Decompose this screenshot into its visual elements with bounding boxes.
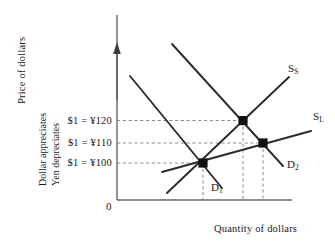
- y-tick-label-100: $1 = ¥100: [28, 157, 112, 168]
- y-tick-label-120: $1 = ¥120: [28, 115, 112, 126]
- curve-label-d2-base: D: [287, 158, 295, 170]
- equilibrium-point-short-run: [238, 116, 247, 125]
- curve-label-demand-initial: D1: [211, 181, 223, 193]
- appreciation-arrow-icon: [113, 42, 121, 100]
- curve-label-supply-short-run: SS: [288, 62, 298, 74]
- x-axis-title: Quantity of dollars: [214, 224, 297, 235]
- y-tick-label-110: $1 = ¥110: [28, 137, 112, 148]
- supply-curve-short-run: [167, 77, 289, 193]
- curve-label-d1-base: D: [211, 181, 219, 193]
- equilibrium-point-long-run: [258, 138, 267, 147]
- equilibrium-point-initial: [198, 158, 207, 167]
- curve-label-sl-subscript: L: [319, 115, 324, 124]
- curve-label-d2-subscript: 2: [295, 163, 299, 172]
- origin-label: 0: [106, 201, 112, 212]
- curve-label-demand-new: D2: [287, 158, 299, 170]
- curve-label-d1-subscript: 1: [219, 186, 223, 195]
- curves-group: [130, 44, 311, 193]
- curve-label-ss-subscript: S: [294, 67, 298, 76]
- axis-group: [117, 15, 292, 200]
- y-axis-title: Price of dollars: [17, 37, 28, 104]
- guide-lines-group: [117, 121, 263, 201]
- exchange-rate-chart-figure: Price of dollars Dollar appreciates Yen …: [0, 0, 335, 243]
- curve-label-supply-long-run: SL: [313, 110, 324, 122]
- demand-curve-d1: [130, 76, 222, 188]
